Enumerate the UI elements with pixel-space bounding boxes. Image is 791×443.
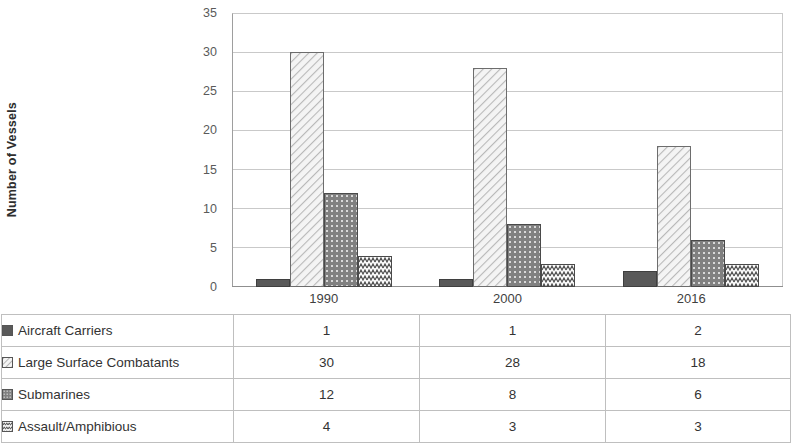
plot-area <box>232 13 783 287</box>
bar-2016-assault-amphibious <box>725 264 759 287</box>
legend-swatch-icon <box>2 421 13 432</box>
y-axis-tick-label: 25 <box>203 84 217 98</box>
bar-pattern-fill <box>325 194 357 286</box>
bar-2016-submarines <box>691 240 725 287</box>
bar-group-2000 <box>416 13 600 287</box>
y-axis-tick-label: 0 <box>210 280 217 294</box>
bar-group-1990 <box>232 13 416 287</box>
bar-2000-submarines <box>507 224 541 287</box>
bar-pattern-fill <box>291 53 323 286</box>
table-cell-2000-large-surface-combatants: 28 <box>420 347 606 379</box>
bar-pattern-fill <box>726 265 758 286</box>
y-axis-tick-label: 5 <box>210 241 217 255</box>
bar-2016-large-surface-combatants <box>657 146 691 287</box>
table-cell-2000-aircraft-carriers: 1 <box>420 315 606 347</box>
y-axis-tick-label: 20 <box>203 123 217 137</box>
table-cell-2016-aircraft-carriers: 2 <box>606 315 791 347</box>
legend-label: Submarines <box>18 387 90 402</box>
y-axis-tick-labels: 05101520253035 <box>185 13 225 287</box>
bar-pattern-fill <box>542 265 574 286</box>
legend-label: Aircraft Carriers <box>18 323 113 338</box>
legend-row-large-surface-combatants: Large Surface Combatants <box>2 347 234 379</box>
bar-pattern-fill <box>658 147 690 286</box>
legend-label: Assault/Amphibious <box>18 419 137 434</box>
y-axis-tick-label: 10 <box>203 202 217 216</box>
bar-group-2016 <box>599 13 783 287</box>
table-cell-1990-aircraft-carriers: 1 <box>234 315 420 347</box>
bar-pattern-fill <box>474 69 506 286</box>
bar-2000-aircraft-carriers <box>439 279 473 287</box>
legend-swatch-icon <box>2 357 13 368</box>
y-axis-tick-label: 15 <box>203 163 217 177</box>
y-axis-tick-label: 35 <box>203 6 217 20</box>
bar-2000-large-surface-combatants <box>473 68 507 287</box>
bar-2000-assault-amphibious <box>541 264 575 287</box>
y-axis-title: Number of Vessels <box>2 60 22 260</box>
table-cell-2000-assault-amphibious: 3 <box>420 411 606 443</box>
table-row: Submarines1286 <box>2 379 791 411</box>
bar-pattern-fill <box>508 225 540 286</box>
bar-1990-assault-amphibious <box>358 256 392 287</box>
x-axis-label-1990: 1990 <box>232 291 416 306</box>
legend-swatch-icon <box>2 325 13 336</box>
data-table: Aircraft Carriers112Large Surface Combat… <box>1 314 791 443</box>
bar-1990-aircraft-carriers <box>256 279 290 287</box>
x-axis-category-labels: 199020002016 <box>232 289 783 315</box>
data-table-body: Aircraft Carriers112Large Surface Combat… <box>2 315 791 443</box>
table-cell-2016-submarines: 6 <box>606 379 791 411</box>
bar-1990-submarines <box>324 193 358 287</box>
x-axis-label-2000: 2000 <box>416 291 600 306</box>
table-cell-1990-assault-amphibious: 4 <box>234 411 420 443</box>
table-cell-1990-submarines: 12 <box>234 379 420 411</box>
table-cell-1990-large-surface-combatants: 30 <box>234 347 420 379</box>
y-axis-tick-label: 30 <box>203 45 217 59</box>
bar-pattern-fill <box>692 241 724 286</box>
table-row: Aircraft Carriers112 <box>2 315 791 347</box>
bar-pattern-fill <box>359 257 391 286</box>
legend-row-aircraft-carriers: Aircraft Carriers <box>2 315 234 347</box>
table-cell-2016-large-surface-combatants: 18 <box>606 347 791 379</box>
legend-label: Large Surface Combatants <box>18 355 179 370</box>
table-row: Assault/Amphibious433 <box>2 411 791 443</box>
bar-2016-aircraft-carriers <box>623 271 657 287</box>
y-axis-title-text: Number of Vessels <box>5 102 19 217</box>
legend-swatch-icon <box>2 389 13 400</box>
table-cell-2000-submarines: 8 <box>420 379 606 411</box>
x-axis-label-2016: 2016 <box>599 291 783 306</box>
table-row: Large Surface Combatants302818 <box>2 347 791 379</box>
legend-row-assault-amphibious: Assault/Amphibious <box>2 411 234 443</box>
legend-row-submarines: Submarines <box>2 379 234 411</box>
bar-1990-large-surface-combatants <box>290 52 324 287</box>
table-cell-2016-assault-amphibious: 3 <box>606 411 791 443</box>
